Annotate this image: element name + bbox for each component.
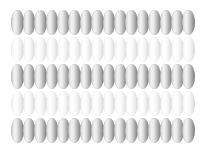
bead-row [0,118,204,143]
pattern-canvas [0,0,204,154]
bead [182,91,195,116]
bead-row [0,10,204,35]
bead [148,64,161,89]
bead-row [0,64,204,89]
bead [182,37,195,62]
bead [91,91,104,116]
bead [182,10,195,35]
bead [91,10,104,35]
bead [148,37,161,62]
bead [34,64,47,89]
bead [148,91,161,116]
bead [182,118,195,143]
bead [91,118,104,143]
bead [34,37,47,62]
bead [148,118,161,143]
bead [91,64,104,89]
bead [34,10,47,35]
bead [34,91,47,116]
bead [148,10,161,35]
bead [182,64,195,89]
bead [91,37,104,62]
bead-row [0,91,204,116]
ellipse-bead-grid [0,0,204,154]
bead-row [0,37,204,62]
bead [34,118,47,143]
